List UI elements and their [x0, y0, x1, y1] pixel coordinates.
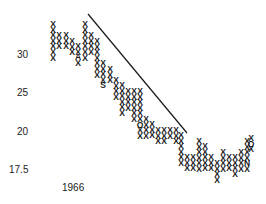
x-mark: X: [56, 41, 62, 51]
x-mark: X: [244, 164, 250, 174]
x-mark: X: [75, 58, 81, 68]
x-mark: X: [214, 175, 220, 185]
month-mark: S: [100, 80, 106, 90]
x-mark: X: [248, 144, 254, 154]
point-and-figure-chart: XXXXXXXXXXXXXXXXXXAXXXXXXXXXXXXXXXXXXXXX…: [0, 0, 266, 204]
chart-marks: XXXXXXXXXXXXXXXXXXAXXXXXXXXXXXXXXXXXXXXX…: [50, 19, 255, 185]
x-mark: X: [50, 53, 56, 63]
